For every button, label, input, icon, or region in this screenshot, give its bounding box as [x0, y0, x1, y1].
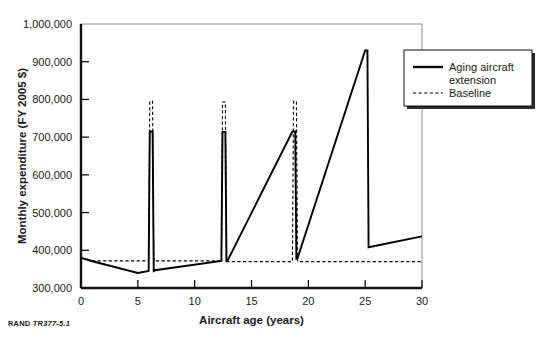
legend-label[interactable]: Baseline: [449, 87, 491, 99]
legend-label[interactable]: Aging aircraft: [449, 61, 514, 73]
y-axis-title: Monthly expenditure (FY 2005 $): [16, 68, 28, 244]
y-axis-tick-label: 700,000: [32, 131, 72, 143]
y-axis-tick-label: 900,000: [32, 56, 72, 68]
figure-container: 300,000400,000500,000600,000700,000800,0…: [0, 0, 540, 347]
source-brand: RAND: [8, 319, 30, 328]
x-axis-tick-label: 0: [78, 295, 84, 307]
y-axis-tick-label: 1,000,000: [23, 18, 72, 30]
x-axis-tick-label: 15: [245, 295, 257, 307]
x-axis-tick-label: 20: [302, 295, 314, 307]
x-axis-tick-label: 30: [416, 295, 428, 307]
x-axis-tick-label: 5: [135, 295, 141, 307]
x-axis-tick-label: 25: [359, 295, 371, 307]
x-axis-tick-label: 10: [189, 295, 201, 307]
source-id: TR377-5.1: [33, 319, 70, 328]
plot-layer: 300,000400,000500,000600,000700,000800,0…: [16, 18, 535, 326]
legend-label-continued[interactable]: extension: [449, 74, 496, 86]
y-axis-tick-label: 400,000: [32, 244, 72, 256]
y-axis-tick-label: 500,000: [32, 207, 72, 219]
series-line-baseline: [81, 101, 422, 261]
y-axis-tick-label: 600,000: [32, 169, 72, 181]
figure-source-note: RAND TR377-5.1: [8, 319, 70, 328]
plot-frame: [81, 24, 422, 288]
y-axis-tick-label: 800,000: [32, 93, 72, 105]
chart-svg: 300,000400,000500,000600,000700,000800,0…: [0, 0, 540, 347]
series-line-aging-aircraft-extension: [81, 50, 422, 273]
x-axis-title: Aircraft age (years): [199, 314, 304, 326]
series-group: [81, 50, 422, 273]
y-axis-tick-label: 300,000: [32, 282, 72, 294]
